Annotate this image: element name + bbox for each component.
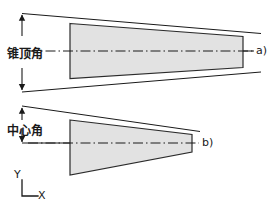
part-label-a: a) (256, 44, 267, 57)
technical-diagram: 锥顶角 中心角 a) b) Y X (0, 0, 277, 215)
view-b-center-angle (22, 106, 200, 175)
view-a-cone-apex-angle (22, 14, 261, 93)
cone-body-b (70, 120, 192, 175)
center-angle-label: 中心角 (7, 121, 43, 138)
part-label-b: b) (202, 136, 213, 149)
axis-label-y: Y (14, 168, 21, 181)
diagram-canvas (0, 0, 277, 215)
cone-apex-angle-label: 锥顶角 (7, 44, 43, 61)
angle-ray-lower-a (22, 72, 261, 92)
axis-label-x: X (38, 189, 46, 202)
axis-corner-icon (22, 180, 38, 196)
